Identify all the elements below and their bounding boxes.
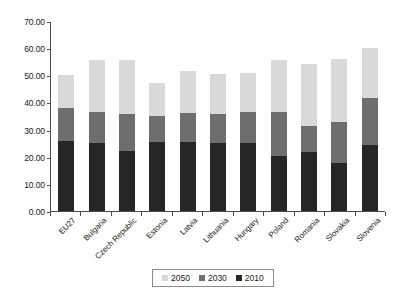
bar-segment-2010 bbox=[149, 142, 165, 211]
x-axis-tick bbox=[385, 212, 386, 216]
bar-segment-2030 bbox=[89, 112, 105, 142]
y-axis-tick-label: 60.00 bbox=[24, 44, 51, 54]
bar-segment-2010 bbox=[210, 143, 226, 211]
bar-segment-2030 bbox=[119, 114, 135, 150]
bar-segment-2050 bbox=[271, 60, 287, 112]
y-axis-tick-label: 0.00 bbox=[29, 207, 51, 217]
bar-stack bbox=[240, 73, 256, 211]
legend-item-2050[interactable]: 2050 bbox=[162, 273, 190, 283]
x-axis-labels: EU27BulgariaCzech RepublicEstoniaLatviaL… bbox=[50, 216, 385, 266]
bar-segment-2050 bbox=[331, 59, 347, 122]
bar-stack bbox=[149, 83, 165, 211]
y-axis-tick-label: 50.00 bbox=[24, 71, 51, 81]
bar-segment-2050 bbox=[119, 60, 135, 114]
bar-segment-2050 bbox=[89, 60, 105, 112]
bar-segment-2010 bbox=[180, 142, 196, 211]
bar-segment-2010 bbox=[301, 152, 317, 211]
y-axis-tick-label: 30.00 bbox=[24, 126, 51, 136]
y-axis-tick-label: 10.00 bbox=[24, 180, 51, 190]
chart-legend: 205020302010 bbox=[152, 269, 274, 287]
bar-group[interactable] bbox=[58, 22, 74, 211]
x-axis-label-poland: Poland bbox=[267, 216, 291, 240]
bar-group[interactable] bbox=[331, 22, 347, 211]
bar-segment-2050 bbox=[180, 71, 196, 113]
x-axis-label-slovakia: Slovakia bbox=[324, 216, 351, 243]
bar-stack bbox=[58, 75, 74, 211]
bar-segment-2010 bbox=[89, 143, 105, 211]
bar-segment-2050 bbox=[362, 48, 378, 98]
x-axis-label-bulgaria: Bulgaria bbox=[81, 216, 108, 243]
bar-segment-2030 bbox=[271, 112, 287, 156]
bar-stack bbox=[89, 60, 105, 211]
bar-segment-2030 bbox=[180, 113, 196, 142]
legend-swatch-icon bbox=[236, 275, 242, 281]
bar-stack bbox=[210, 74, 226, 211]
bar-group[interactable] bbox=[271, 22, 287, 211]
y-axis-tick-label: 20.00 bbox=[24, 153, 51, 163]
bar-segment-2030 bbox=[362, 98, 378, 144]
bar-group[interactable] bbox=[362, 22, 378, 211]
x-axis-label-estonia: Estonia bbox=[144, 216, 169, 241]
bar-segment-2030 bbox=[210, 114, 226, 143]
bar-group[interactable] bbox=[301, 22, 317, 211]
bar-group[interactable] bbox=[149, 22, 165, 211]
legend-swatch-icon bbox=[162, 275, 168, 281]
bar-stack bbox=[301, 64, 317, 211]
legend-swatch-icon bbox=[199, 275, 205, 281]
bar-group[interactable] bbox=[240, 22, 256, 211]
bar-segment-2010 bbox=[362, 145, 378, 212]
bar-stack bbox=[180, 71, 196, 211]
legend-item-2030[interactable]: 2030 bbox=[199, 273, 227, 283]
bar-stack bbox=[271, 60, 287, 211]
bar-group[interactable] bbox=[210, 22, 226, 211]
y-axis-tick-label: 70.00 bbox=[24, 17, 51, 27]
legend-label: 2010 bbox=[245, 273, 264, 283]
bar-segment-2050 bbox=[301, 64, 317, 126]
bar-group[interactable] bbox=[119, 22, 135, 211]
bar-segment-2030 bbox=[331, 122, 347, 163]
legend-item-2010[interactable]: 2010 bbox=[236, 273, 264, 283]
bar-group[interactable] bbox=[89, 22, 105, 211]
bar-segment-2030 bbox=[149, 116, 165, 142]
bar-stack bbox=[119, 60, 135, 211]
bar-segment-2030 bbox=[240, 112, 256, 143]
bar-segment-2010 bbox=[331, 163, 347, 211]
bar-stack bbox=[362, 48, 378, 211]
bar-segment-2050 bbox=[149, 83, 165, 116]
plot-area: 0.0010.0020.0030.0040.0050.0060.0070.00 bbox=[50, 22, 385, 212]
bar-series-container bbox=[51, 22, 385, 211]
bar-segment-2050 bbox=[240, 73, 256, 113]
x-axis-label-romania: Romania bbox=[293, 216, 322, 245]
bar-segment-2030 bbox=[58, 108, 74, 141]
bar-segment-2050 bbox=[58, 75, 74, 108]
legend-label: 2030 bbox=[208, 273, 227, 283]
bar-segment-2050 bbox=[210, 74, 226, 114]
x-axis-label-eu27: EU27 bbox=[57, 216, 77, 236]
bar-segment-2010 bbox=[240, 143, 256, 211]
stacked-bar-chart: 0.0010.0020.0030.0040.0050.0060.0070.00 … bbox=[0, 0, 407, 295]
bar-group[interactable] bbox=[180, 22, 196, 211]
bar-segment-2010 bbox=[58, 141, 74, 211]
legend-label: 2050 bbox=[171, 273, 190, 283]
bar-segment-2010 bbox=[271, 156, 287, 211]
x-axis-label-slovenia: Slovenia bbox=[355, 216, 382, 243]
x-axis-label-hungary: Hungary bbox=[233, 216, 260, 243]
bar-stack bbox=[331, 59, 347, 211]
bar-segment-2030 bbox=[301, 126, 317, 152]
bar-segment-2010 bbox=[119, 151, 135, 211]
y-axis-tick-label: 40.00 bbox=[24, 98, 51, 108]
x-axis-label-lithuania: Lithuania bbox=[201, 216, 230, 245]
x-axis-label-latvia: Latvia bbox=[178, 216, 199, 237]
